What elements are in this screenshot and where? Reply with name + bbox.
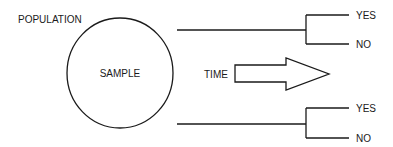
time-arrow-icon (235, 58, 329, 90)
cohort-study-diagram: POPULATION SAMPLE YES NO TIME YES NO (0, 0, 393, 147)
outcome-no-top: NO (356, 39, 371, 50)
branch-top: YES NO (177, 10, 376, 50)
outcome-no-bottom: NO (356, 133, 371, 144)
population-label: POPULATION (18, 14, 82, 25)
time-label: TIME (204, 69, 228, 80)
branch-bottom: YES NO (177, 103, 376, 144)
outcome-yes-top: YES (356, 10, 376, 21)
sample-label: SAMPLE (100, 68, 141, 79)
outcome-yes-bottom: YES (356, 103, 376, 114)
